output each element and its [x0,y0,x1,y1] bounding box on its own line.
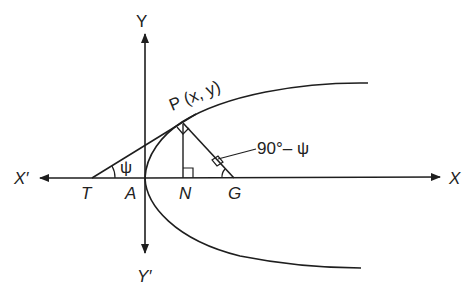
label-90-minus-psi: 90°– ψ [257,139,309,158]
label-t: T [81,184,93,203]
label-x-prime: X′ [13,169,29,188]
label-n: N [179,184,192,203]
x-axis-positive [145,177,440,178]
label-psi: ψ [120,158,132,177]
label-a: A [124,184,136,203]
label-y-prime: Y′ [137,267,152,286]
diagram-canvas: Y Y′ X X′ P (x, y) T A N G ψ 90°– ψ [0,0,474,287]
normal-line-pg [183,123,234,178]
angle-arc-g [222,169,225,178]
parabola-diagram: Y Y′ X X′ P (x, y) T A N G ψ 90°– ψ [0,0,474,287]
label-x: X [448,169,461,188]
tangent-line [92,114,196,178]
label-y: Y [136,12,147,31]
label-p: P (x, y) [166,77,223,115]
angle-arc-psi [112,166,115,178]
right-angle-mark-n [183,168,193,178]
leader-line [218,149,256,159]
label-g: G [228,184,241,203]
